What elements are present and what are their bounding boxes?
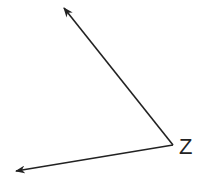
upper-ray <box>64 8 173 145</box>
angle-diagram <box>0 0 202 180</box>
vertex-label-z: Z <box>179 136 192 158</box>
lower-ray <box>16 145 173 171</box>
